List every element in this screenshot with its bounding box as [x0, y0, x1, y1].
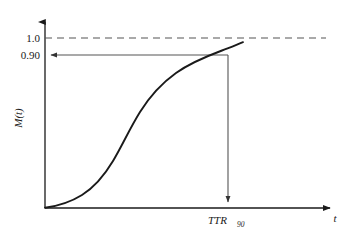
x-axis-title: t: [333, 212, 337, 224]
y-axis-title: M(t): [12, 108, 25, 129]
y-tick-label-upper: 1.0: [26, 32, 40, 44]
figure-container: 1.0 0.90 M(t) t TTR 90: [0, 0, 348, 234]
ttr90-annotation-subscript: 90: [237, 220, 245, 229]
y-tick-label-lower: 0.90: [21, 49, 41, 61]
chart-canvas: 1.0 0.90 M(t) t TTR 90: [0, 0, 348, 234]
maintainability-curve: [45, 42, 243, 208]
ttr90-annotation-label: TTR: [208, 214, 227, 226]
